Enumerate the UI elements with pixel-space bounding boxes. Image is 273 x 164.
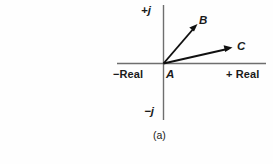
figure-caption: (a) [153, 130, 166, 141]
vector-label-c: C [237, 41, 245, 53]
origin-point-label-a: A [166, 69, 174, 81]
vector-c-arrowhead [224, 45, 233, 52]
vector-label-b: B [199, 15, 207, 27]
axis-label-positive-real: + Real [226, 69, 259, 80]
vector-b-arrowhead [189, 24, 197, 32]
axis-label-negative-imaginary: −j [144, 106, 154, 118]
phasor-plot-canvas [0, 0, 273, 164]
axis-label-negative-real: −Real [113, 69, 143, 80]
axis-label-positive-imaginary: +j [141, 5, 151, 17]
phasor-diagram-figure: +j −j −Real + Real A B C (a) [0, 0, 273, 164]
